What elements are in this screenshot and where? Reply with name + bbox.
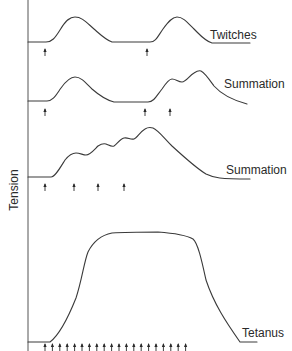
summation-trace-2: Summation: [28, 127, 287, 191]
stimulus-arrow-icon: [73, 343, 76, 351]
tension-axis-label: Tension: [7, 169, 21, 210]
stimulus-arrow-icon: [162, 343, 165, 351]
stimulus-arrow-icon: [80, 343, 83, 351]
stimulus-arrow-icon: [143, 108, 146, 116]
stimulus-arrow-icon: [140, 343, 143, 351]
stimulus-arrow-icon: [184, 343, 187, 351]
stimulus-arrow-icon: [43, 48, 46, 56]
stimulus-arrow-icon: [43, 343, 46, 351]
stimulus-arrow-icon: [96, 183, 99, 191]
twitches-trace: Twitches: [28, 17, 257, 56]
tetanus-trace: Tetanus: [28, 232, 284, 351]
stimulus-arrow-icon: [66, 343, 69, 351]
twitches-label: Twitches: [210, 28, 257, 42]
stimulus-arrow-icon: [110, 343, 113, 351]
stimulus-markers: [43, 108, 171, 116]
stimulus-arrow-icon: [168, 108, 171, 116]
stimulus-markers: [43, 183, 125, 191]
stimulus-arrow-icon: [51, 343, 54, 351]
stimulus-arrow-icon: [58, 343, 61, 351]
stimulus-arrow-icon: [125, 343, 128, 351]
stimulus-markers: [43, 48, 148, 56]
summation-trace-1: Summation: [28, 71, 285, 116]
stimulus-arrow-icon: [145, 48, 148, 56]
tetanus-label: Tetanus: [242, 326, 284, 340]
stimulus-arrow-icon: [169, 343, 172, 351]
stimulus-arrow-icon: [103, 343, 106, 351]
stimulus-arrow-icon: [72, 183, 75, 191]
stimulus-arrow-icon: [88, 343, 91, 351]
stimulus-arrow-icon: [177, 343, 180, 351]
muscle-tension-diagram: Tension Twitches Summation Summation Tet…: [0, 0, 292, 351]
stimulus-arrow-icon: [147, 343, 150, 351]
summation-label-1: Summation: [224, 77, 285, 91]
stimulus-arrow-icon: [122, 183, 125, 191]
stimulus-arrow-icon: [132, 343, 135, 351]
stimulus-markers: [43, 343, 187, 351]
stimulus-arrow-icon: [43, 108, 46, 116]
stimulus-arrow-icon: [95, 343, 98, 351]
stimulus-arrow-icon: [43, 183, 46, 191]
stimulus-arrow-icon: [117, 343, 120, 351]
summation-label-2: Summation: [226, 163, 287, 177]
stimulus-arrow-icon: [154, 343, 157, 351]
